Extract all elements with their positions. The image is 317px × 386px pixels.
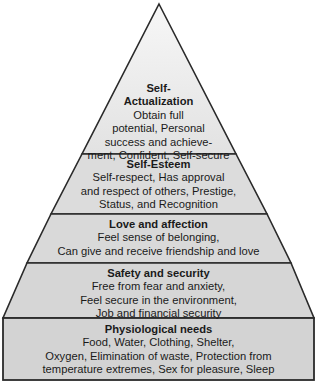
level-title: Safety and security xyxy=(0,267,317,280)
level-love-affection: Love and affection Feel sense of belongi… xyxy=(0,218,317,258)
level-title: Self-Esteem xyxy=(0,158,317,171)
level-description: Food, Water, Clothing, Shelter, Oxygen, … xyxy=(0,336,317,376)
level-self-esteem: Self-Esteem Self-respect, Has approval a… xyxy=(0,158,317,212)
level-description: Feel sense of belonging, Can give and re… xyxy=(0,231,317,258)
level-physiological: Physiological needs Food, Water, Clothin… xyxy=(0,323,317,377)
level-description: Free from fear and anxiety, Feel secure … xyxy=(0,280,317,320)
level-title: Physiological needs xyxy=(0,323,317,336)
level-safety-security: Safety and security Free from fear and a… xyxy=(0,267,317,321)
level-title: Self- Actualization xyxy=(0,82,317,109)
level-description: Obtain full potential, Personal success … xyxy=(0,109,317,163)
level-description: Self-respect, Has approval and respect o… xyxy=(0,171,317,211)
level-title: Love and affection xyxy=(0,218,317,231)
level-self-actualization: Self- Actualization Obtain full potentia… xyxy=(0,82,317,162)
